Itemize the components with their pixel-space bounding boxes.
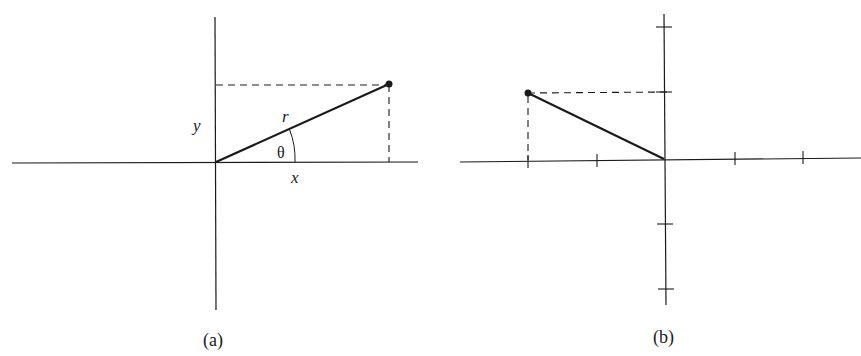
panel-b-x-axis [460, 158, 861, 162]
panel-b-point [525, 90, 532, 97]
panel-a-point [386, 81, 393, 88]
panel-b-dashed-y-projection [528, 92, 668, 93]
panel-b: (b) [460, 14, 861, 348]
panel-a-caption: (a) [203, 330, 223, 351]
panel-a-angle-arc [290, 130, 296, 163]
figure-canvas: y r θ x (a) (b) [0, 0, 861, 356]
panel-a: y r θ x (a) [12, 17, 418, 351]
panel-a-y-axis [215, 17, 216, 310]
panel-a-label-x: x [290, 168, 299, 187]
panel-b-radius-line [528, 93, 664, 159]
panel-a-label-r: r [282, 107, 289, 126]
panel-a-label-theta: θ [277, 144, 285, 161]
panel-a-radius-line [216, 84, 389, 162]
panel-a-label-y: y [191, 116, 201, 135]
panel-b-caption: (b) [653, 327, 674, 348]
